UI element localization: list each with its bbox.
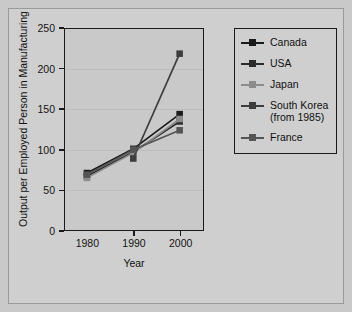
series-marker-japan (176, 116, 183, 123)
legend-swatch-icon (241, 37, 264, 49)
legend-item-label: Canada (270, 36, 307, 48)
legend-item[interactable]: USA (241, 57, 330, 70)
legend-swatch-icon (241, 132, 264, 144)
series-marker-southkorea (130, 155, 137, 162)
x-tick-mark (133, 231, 135, 236)
series-marker-france (176, 127, 183, 134)
legend-item[interactable]: Japan (241, 78, 330, 91)
legend-item-label: South Korea (from 1985) (270, 99, 328, 123)
series-marker-france (84, 171, 91, 178)
legend-item[interactable]: Canada (241, 36, 330, 49)
legend-item-label: France (270, 131, 303, 143)
x-tick-label: 1990 (112, 237, 156, 249)
legend-item[interactable]: South Korea (from 1985) (241, 99, 330, 123)
chart-legend: CanadaUSAJapanSouth Korea (from 1985)Fra… (234, 28, 337, 154)
series-line-southkorea (133, 54, 179, 159)
x-tick-label: 1980 (65, 237, 109, 249)
legend-swatch-icon (241, 79, 264, 91)
x-tick-label: 2000 (159, 237, 203, 249)
legend-swatch-icon (241, 100, 264, 112)
legend-item[interactable]: France (241, 131, 330, 144)
legend-swatch-icon (241, 58, 264, 70)
series-line-canada (87, 114, 180, 173)
legend-item-label: Japan (270, 78, 299, 90)
series-marker-southkorea (176, 50, 183, 57)
x-tick-mark (180, 231, 182, 236)
x-axis-title: Year (64, 257, 204, 269)
chart-figure: Output per Employed Person in Manufactur… (8, 8, 344, 304)
series-marker-france (130, 146, 137, 153)
legend-item-label: USA (270, 57, 292, 69)
